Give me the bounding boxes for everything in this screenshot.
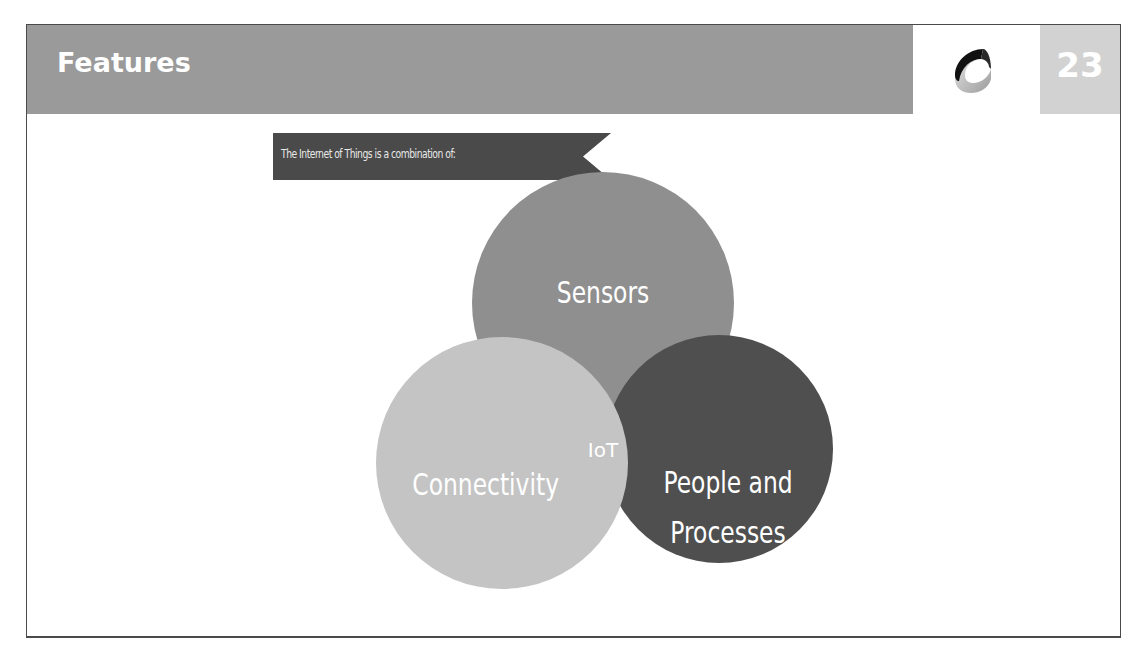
venn-diagram [27, 25, 1122, 639]
connectivity-circle [376, 337, 628, 589]
connectivity-label: Connectivity [412, 467, 549, 502]
sensors-label: Sensors [556, 275, 650, 310]
people-label-line2: Processes [662, 515, 795, 550]
iot-label: IoT [575, 438, 631, 462]
slide-frame: Features 23 The Internet of Things is a … [26, 24, 1121, 638]
people-label-line1: People and [662, 465, 795, 500]
